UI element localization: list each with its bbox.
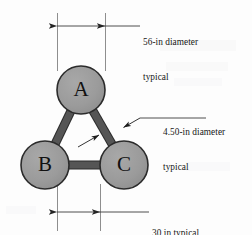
spacing-note-line1: 30 in typical [152, 228, 199, 235]
sphere-b-label: B [38, 152, 52, 176]
sphere-group: A B C [21, 66, 148, 189]
rod-diameter-note: 4.50-in diameter typical [163, 104, 225, 197]
sphere-diameter-note-line1: 56-in diameter [143, 37, 198, 49]
spacing-note: 30 in typical [152, 205, 199, 235]
figure-page: A B C 56-in diameter typical 4.50-in dia… [0, 0, 252, 235]
leader-arrow-outer [124, 118, 141, 128]
spacing-dimension [57, 184, 149, 231]
rod-diameter-note-line1: 4.50-in diameter [163, 127, 225, 139]
leader-arrow-inner [78, 135, 99, 147]
sphere-diameter-note-line2: typical [143, 72, 198, 84]
rod-diameter-note-line2: typical [163, 162, 225, 174]
sphere-diameter-note: 56-in diameter typical [143, 14, 198, 107]
sphere-c-label: C [117, 152, 131, 176]
sphere-diameter-dimension [57, 13, 140, 71]
sphere-a-label: A [73, 77, 89, 101]
